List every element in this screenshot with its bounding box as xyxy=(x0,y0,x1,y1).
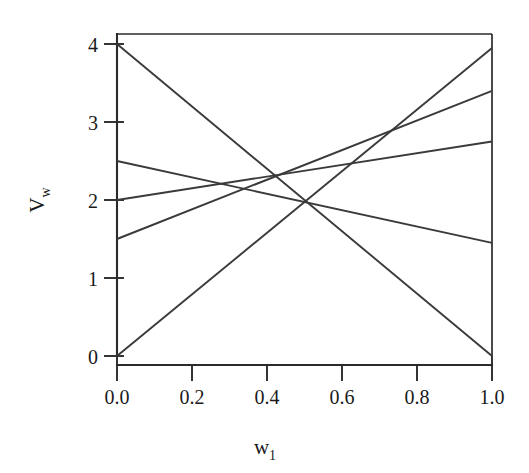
series-line-4 xyxy=(117,91,492,239)
y-tick-label-2: 2 xyxy=(88,190,98,212)
x-tick-label-0.6: 0.6 xyxy=(330,386,355,408)
chart-figure: 4 3 2 1 0 0.0 0.2 0.4 0.6 0.8 1.0 xyxy=(0,0,529,473)
y-tick-label-4: 4 xyxy=(88,34,98,56)
series-line-3 xyxy=(117,142,492,201)
y-axis-title-text: V xyxy=(25,197,49,212)
data-series-group xyxy=(117,44,492,356)
svg-text:Vw: Vw xyxy=(25,186,53,212)
x-tick-label-0.4: 0.4 xyxy=(255,386,280,408)
y-tick-label-1: 1 xyxy=(88,268,98,290)
x-axis-title-text: w xyxy=(254,435,270,459)
x-tick-label-0.8: 0.8 xyxy=(405,386,430,408)
x-axis-tick-labels: 0.0 0.2 0.4 0.6 0.8 1.0 xyxy=(105,386,505,408)
y-tick-label-0: 0 xyxy=(88,346,98,368)
x-tick-label-1.0: 1.0 xyxy=(480,386,505,408)
svg-text:w1: w1 xyxy=(254,435,276,463)
x-axis-title-subscript: 1 xyxy=(269,448,276,463)
x-axis-ticks xyxy=(117,356,492,381)
y-tick-label-3: 3 xyxy=(88,112,98,134)
x-tick-label-0.0: 0.0 xyxy=(105,386,130,408)
y-axis-title-subscript: w xyxy=(38,186,53,197)
line-chart-plot: 4 3 2 1 0 0.0 0.2 0.4 0.6 0.8 1.0 xyxy=(0,0,529,473)
x-tick-label-0.2: 0.2 xyxy=(180,386,205,408)
y-axis-tick-labels: 4 3 2 1 0 xyxy=(88,34,98,368)
y-axis-title: Vw xyxy=(25,186,53,212)
x-axis-title: w1 xyxy=(254,435,276,463)
